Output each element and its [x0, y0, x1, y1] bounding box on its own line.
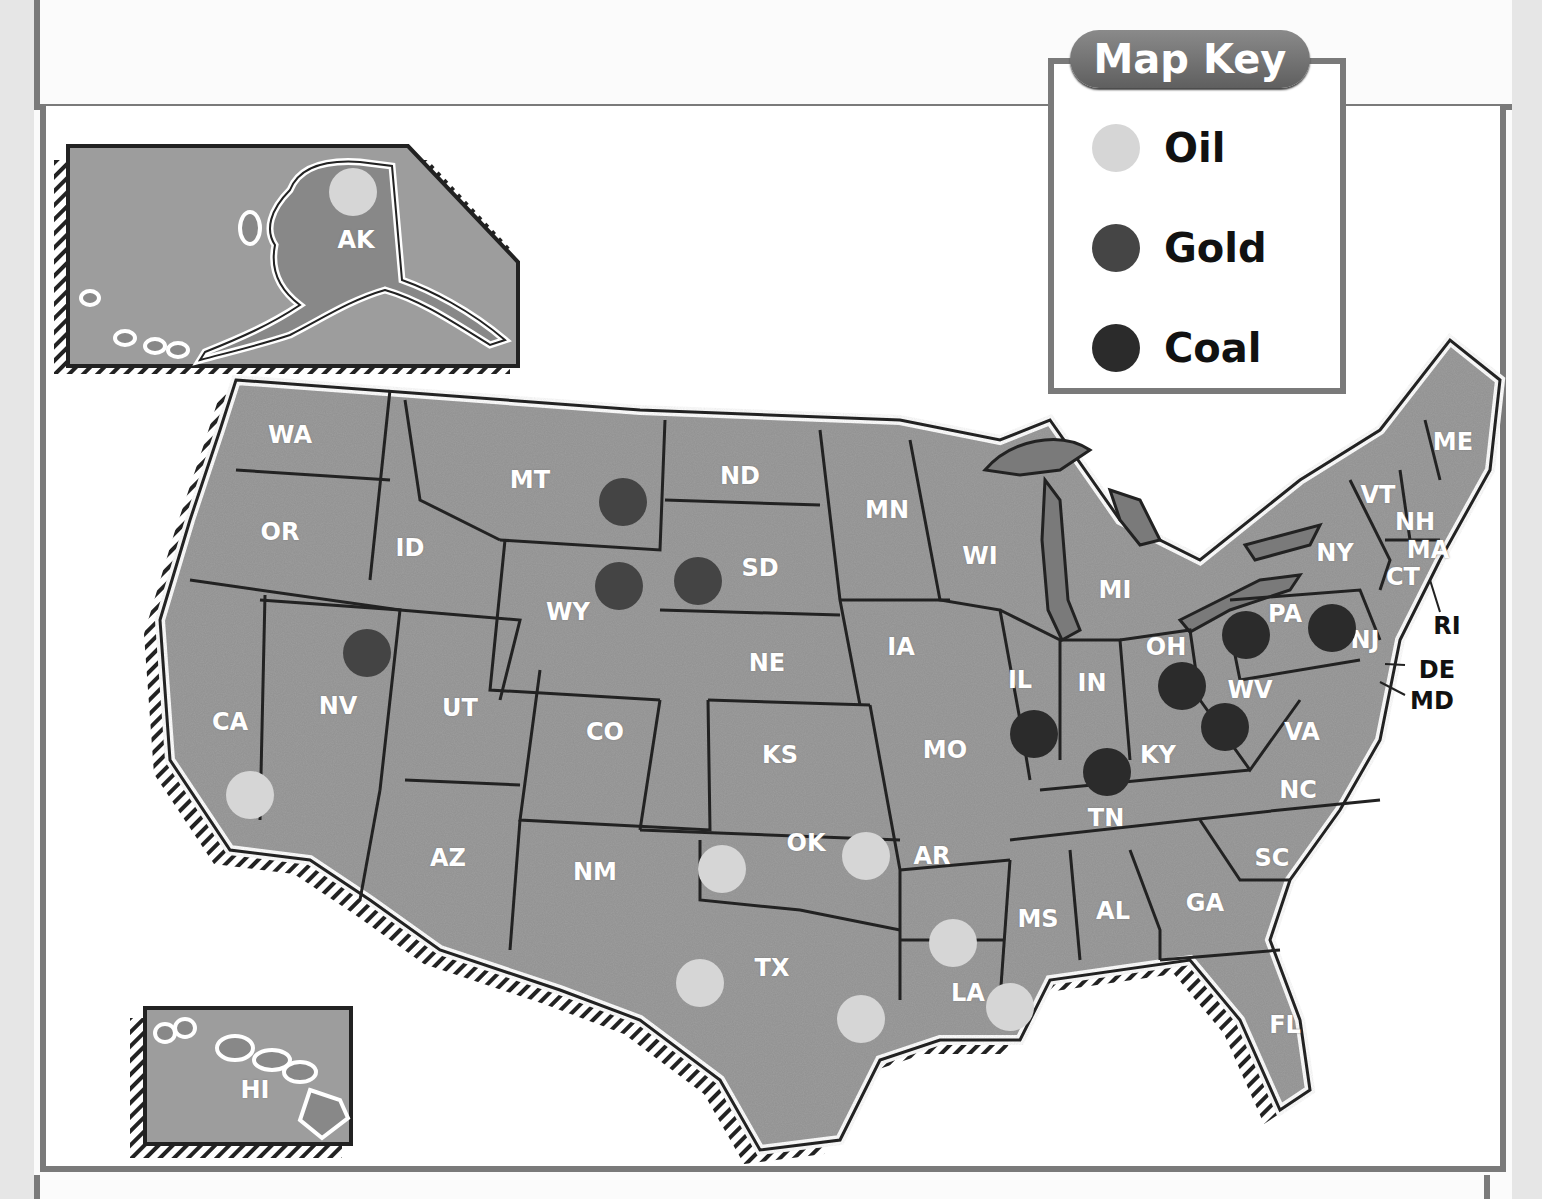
state-label-la: LA	[951, 979, 985, 1007]
state-label-sc: SC	[1255, 844, 1290, 872]
coal-marker-icon	[1092, 324, 1140, 372]
state-label-pa: PA	[1268, 600, 1302, 628]
legend-item-coal: Coal	[1092, 324, 1262, 372]
state-label-in: IN	[1077, 669, 1106, 697]
legend-label: Coal	[1164, 325, 1262, 371]
oil-marker-icon	[929, 919, 977, 967]
state-label-oh: OH	[1146, 633, 1187, 661]
state-label-wa: WA	[268, 421, 312, 449]
state-label-or: OR	[261, 518, 300, 546]
state-label-me: ME	[1433, 428, 1473, 456]
state-label-wy: WY	[546, 598, 590, 626]
state-label-co: CO	[586, 718, 624, 746]
state-label-az: AZ	[430, 844, 466, 872]
state-label-va: VA	[1284, 718, 1320, 746]
gold-marker-icon	[343, 629, 391, 677]
state-label-ky: KY	[1140, 741, 1176, 769]
state-label-il: IL	[1008, 666, 1032, 694]
state-label-ca: CA	[212, 708, 248, 736]
state-label-mi: MI	[1099, 576, 1132, 604]
state-label-ms: MS	[1017, 905, 1058, 933]
callout-label-md: MD	[1410, 687, 1454, 715]
coal-marker-icon	[1201, 703, 1249, 751]
oil-marker-icon	[986, 983, 1034, 1031]
state-label-mo: MO	[923, 736, 967, 764]
state-label-nd: ND	[720, 462, 760, 490]
oil-marker-icon	[1092, 124, 1140, 172]
state-label-ct: CT	[1386, 563, 1420, 591]
gold-marker-icon	[674, 557, 722, 605]
state-label-ia: IA	[887, 633, 915, 661]
oil-marker-icon	[226, 771, 274, 819]
state-label-mt: MT	[510, 466, 550, 494]
state-label-mn: MN	[865, 496, 909, 524]
state-label-wv: WV	[1227, 676, 1272, 704]
state-label-ma: MA	[1407, 536, 1449, 564]
map-key-title: Map Key	[1070, 30, 1310, 88]
legend-label: Gold	[1164, 225, 1267, 271]
coal-marker-icon	[1308, 604, 1356, 652]
state-label-id: ID	[396, 534, 425, 562]
oil-marker-icon	[842, 832, 890, 880]
gold-marker-icon	[595, 562, 643, 610]
legend-label: Oil	[1164, 125, 1225, 171]
state-label-hi: HI	[240, 1076, 269, 1104]
legend-item-gold: Gold	[1092, 224, 1267, 272]
state-label-ak: AK	[337, 226, 374, 254]
coal-marker-icon	[1222, 611, 1270, 659]
state-label-vt: VT	[1361, 481, 1396, 509]
legend-item-oil: Oil	[1092, 124, 1225, 172]
oil-marker-icon	[837, 995, 885, 1043]
state-label-nm: NM	[573, 858, 617, 886]
oil-marker-icon	[676, 959, 724, 1007]
gold-marker-icon	[1092, 224, 1140, 272]
state-label-ar: AR	[913, 842, 950, 870]
state-label-tx: TX	[755, 954, 790, 982]
state-label-wi: WI	[962, 542, 997, 570]
callout-label-ri: RI	[1433, 612, 1460, 640]
state-label-ks: KS	[762, 741, 798, 769]
alaska-inset	[54, 146, 518, 374]
state-label-nv: NV	[319, 692, 358, 720]
state-label-ne: NE	[749, 649, 785, 677]
state-label-tn: TN	[1088, 804, 1124, 832]
state-label-al: AL	[1096, 897, 1130, 925]
gold-marker-icon	[599, 478, 647, 526]
oil-marker-icon	[698, 845, 746, 893]
state-label-nc: NC	[1279, 776, 1317, 804]
state-label-ga: GA	[1186, 889, 1224, 917]
state-label-ok: OK	[787, 829, 826, 857]
oil-marker-icon	[329, 168, 377, 216]
state-label-nh: NH	[1395, 508, 1435, 536]
state-label-ny: NY	[1316, 539, 1353, 567]
callout-label-de: DE	[1419, 656, 1455, 684]
coal-marker-icon	[1083, 748, 1131, 796]
coal-marker-icon	[1010, 710, 1058, 758]
coal-marker-icon	[1158, 662, 1206, 710]
state-label-fl: FL	[1269, 1011, 1301, 1039]
state-label-sd: SD	[741, 554, 778, 582]
state-label-ut: UT	[442, 694, 478, 722]
